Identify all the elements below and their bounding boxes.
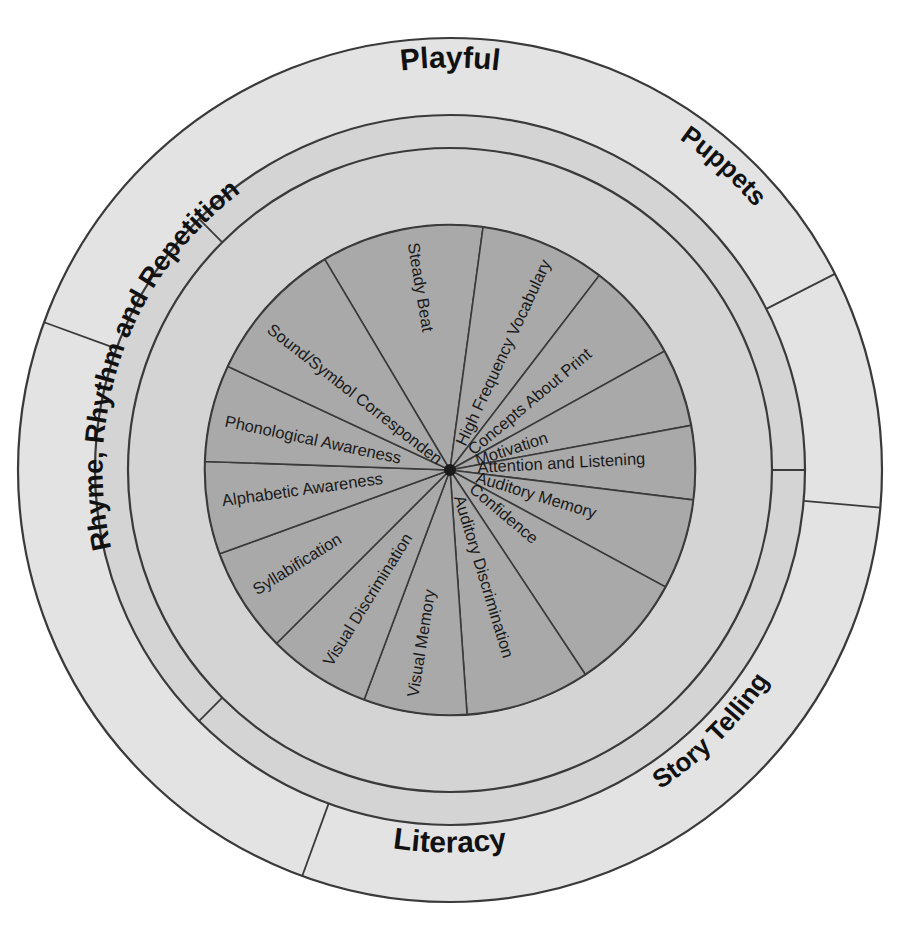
literacy-wheel-diagram: Steady BeatHigh Frequency VocabularyConc… xyxy=(0,0,900,932)
diagram-canvas: Steady BeatHigh Frequency VocabularyConc… xyxy=(0,0,900,932)
outer-ring-label-literacy[interactable]: Literacy xyxy=(392,821,509,858)
wheel-hub xyxy=(444,464,456,476)
outer-ring-label-playful[interactable]: Playful xyxy=(398,40,502,76)
